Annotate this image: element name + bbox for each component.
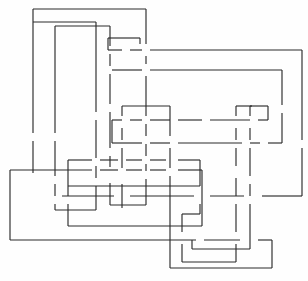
strand-lower-left-outer <box>10 106 272 268</box>
knot-diagram-svg <box>0 0 308 281</box>
strand-lower-mid-bar <box>68 160 200 186</box>
figure-canvas <box>0 0 308 281</box>
strand-loop-inner-upper-left <box>33 22 96 210</box>
strand-right-tall <box>182 106 252 262</box>
strand-center-rect <box>130 106 268 249</box>
strand-loop-upper-right-big <box>108 38 302 196</box>
